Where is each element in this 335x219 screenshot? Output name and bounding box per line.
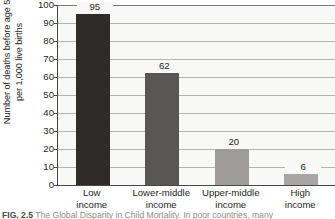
y-tick-label-90: 90 (26, 18, 54, 28)
y-tick-mark-0 (54, 185, 58, 186)
y-tick-label-30: 30 (26, 126, 54, 136)
bar-value-label: 95 (77, 2, 113, 12)
bar (145, 73, 179, 185)
x-axis-label: High income (266, 187, 335, 210)
y-tick-mark-70 (54, 59, 58, 60)
y-tick-label-60: 60 (26, 72, 54, 82)
y-tick-label-70: 70 (26, 54, 54, 64)
figure-caption-text: The Global Disparity in Child Mortality.… (35, 210, 273, 219)
y-axis-title: Number of deaths before age 5 per 1,000 … (1, 0, 29, 157)
y-tick-mark-90 (54, 23, 58, 24)
y-tick-mark-10 (54, 167, 58, 168)
bar-value-label: 20 (216, 137, 252, 147)
x-axis-label: Low income (57, 187, 127, 210)
chart-screenshot: Number of deaths before age 5 per 1,000 … (0, 0, 335, 219)
y-tick-mark-100 (54, 5, 58, 6)
y-tick-label-10: 10 (26, 162, 54, 172)
bar (284, 174, 318, 185)
y-tick-label-50: 50 (26, 90, 54, 100)
y-tick-label-20: 20 (26, 144, 54, 154)
y-tick-mark-40 (54, 113, 58, 114)
x-axis-label: Upper-middle income (196, 187, 266, 210)
bar (76, 14, 110, 185)
y-tick-mark-20 (54, 149, 58, 150)
y-tick-label-40: 40 (26, 108, 54, 118)
bar-value-label: 6 (285, 162, 321, 172)
plot-area: 9562206 (57, 5, 335, 186)
y-axis-tick-labels: 1009080706050403020100 (26, 0, 54, 190)
bar-value-label: 62 (146, 61, 182, 71)
y-tick-mark-60 (54, 77, 58, 78)
figure-number: FIG. 2.5 (2, 210, 33, 219)
y-tick-label-0: 0 (26, 180, 54, 190)
x-axis-label: Lower-middle income (127, 187, 197, 210)
y-tick-mark-50 (54, 95, 58, 96)
y-tick-label-100: 100 (26, 0, 54, 10)
y-tick-label-80: 80 (26, 36, 54, 46)
bar (215, 149, 249, 185)
figure-caption: FIG. 2.5 The Global Disparity in Child M… (2, 210, 335, 219)
y-tick-mark-30 (54, 131, 58, 132)
y-tick-mark-80 (54, 41, 58, 42)
